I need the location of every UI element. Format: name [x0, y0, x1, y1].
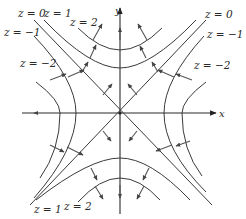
x-axis-label: x	[219, 108, 225, 119]
y-axis-label: y	[114, 5, 121, 16]
level-curve-zm2	[36, 82, 206, 178]
axes: x y	[22, 5, 225, 214]
label-zm2-top-right: z = −2	[193, 59, 231, 71]
contour-diagram: x y	[0, 0, 246, 219]
label-z1-bottom: z = 1	[33, 203, 62, 215]
label-zm2-top-left: z = −2	[19, 57, 57, 69]
gradient-arrows	[34, 24, 192, 199]
label-zm1-top-left: z = −1	[3, 26, 40, 38]
label-z1-top-left: z = 1	[43, 7, 72, 19]
label-z2-bottom: z = 2	[63, 200, 92, 212]
label-z2-top-left: z = 2	[69, 16, 98, 28]
label-z0-top-left: z = 0	[17, 7, 46, 19]
level-labels: z = 0 z = 1 z = 2 z = −1 z = −2 z = 0 z …	[3, 7, 243, 215]
label-zm1-top-right: z = −1	[206, 28, 243, 40]
label-z0-top-right: z = 0	[204, 8, 233, 20]
